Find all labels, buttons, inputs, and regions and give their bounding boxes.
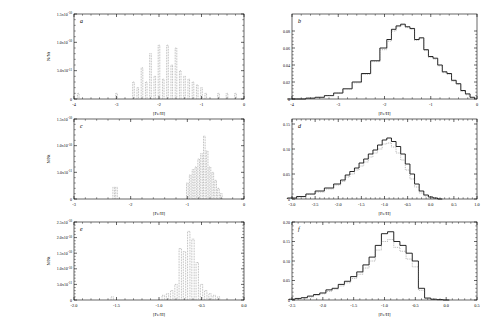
histogram-bar (179, 249, 181, 300)
y-tick-label: 0.10 (283, 259, 290, 264)
histogram-series (289, 240, 449, 300)
y-tick-label: 0 (70, 97, 72, 102)
panel-label: a (80, 18, 83, 24)
x-axis-label: [Fe/H] (378, 312, 391, 317)
x-tick-label: -1 (200, 102, 204, 107)
histogram-bar (77, 93, 79, 99)
x-tick-label: 0.0 (241, 303, 246, 308)
y-tick-label: 0 (70, 197, 72, 202)
y-tick-label: 0.08 (283, 29, 290, 34)
plot-e: -2.0-1.5-1.0-0.50.005.0x10-111.0x10-101.… (40, 218, 250, 318)
histogram-bar (192, 170, 194, 199)
histogram-bar (213, 295, 215, 300)
histogram-bar (184, 76, 186, 99)
y-tick-label: 0.04 (283, 63, 290, 68)
histogram-bar (205, 291, 207, 300)
panel-label: e (80, 226, 83, 232)
x-tick-label: 0.0 (443, 303, 448, 308)
y-axis-label: N/Nt (46, 51, 51, 61)
panel-label: c (80, 123, 83, 129)
x-tick-label: -4 (72, 102, 76, 107)
histogram-bar (218, 188, 220, 199)
x-tick-label: -4 (290, 102, 294, 107)
histogram-bar (158, 45, 160, 99)
x-tick-label: -2.0 (335, 202, 342, 207)
histogram-bar (167, 45, 169, 99)
y-tick-label: 0.10 (283, 147, 290, 152)
plot-c: -3-2-1005.0x10-111.0x10-101.5x10-10c[Fe/… (40, 115, 250, 217)
x-axis-label: [Fe/H] (378, 211, 391, 216)
x-tick-label: -1.0 (381, 202, 388, 207)
histogram-bar (150, 54, 152, 99)
x-tick-label: 1.0 (474, 202, 479, 207)
x-tick-label: -0.5 (198, 303, 205, 308)
x-tick-label: -2.5 (289, 303, 296, 308)
axes-frame (74, 222, 244, 300)
y-tick-label: 0 (70, 298, 72, 303)
x-tick-label: 0 (243, 102, 245, 107)
x-tick-label: 0 (476, 102, 478, 107)
y-tick-label: 0.20 (283, 220, 290, 225)
histogram-bar (162, 79, 164, 99)
histogram-bar (189, 175, 191, 199)
axes-frame (292, 14, 477, 99)
y-axis-label: N/Nt (46, 154, 51, 164)
x-tick-label: -1.5 (350, 303, 357, 308)
panel-label: b (298, 18, 301, 24)
x-tick-label: -2.0 (319, 303, 326, 308)
bar-series (113, 136, 222, 199)
histogram-series (287, 24, 474, 99)
histogram-bar (188, 79, 190, 99)
bar-series (111, 231, 220, 300)
x-tick-label: -0.5 (412, 303, 419, 308)
histogram-bar (141, 68, 143, 99)
x-tick-label: -2.0 (71, 303, 78, 308)
x-tick-label: -1.0 (156, 303, 163, 308)
panel-e: -2.0-1.5-1.0-0.50.005.0x10-111.0x10-101.… (40, 218, 250, 318)
y-tick-label: 0 (288, 197, 290, 202)
x-axis-label: [Fe/H] (153, 211, 166, 216)
x-tick-label: 0.5 (451, 202, 456, 207)
histogram-bar (179, 71, 181, 99)
x-tick-label: -1.0 (381, 303, 388, 308)
y-tick-label: 0.05 (283, 278, 290, 283)
histogram-bar (171, 65, 173, 99)
histogram-bar (215, 180, 217, 199)
y-tick-label: 1.0x10-10 (57, 39, 73, 45)
histogram-bar (192, 82, 194, 99)
y-tick-label: 1.5x10-10 (57, 11, 73, 17)
plot-a: -4-3-2-1005.0x10-111.0x10-101.5x10-10a[F… (40, 10, 250, 117)
histogram-bar (195, 167, 197, 199)
histogram-bar (137, 88, 139, 99)
x-tick-label: 0.5 (474, 303, 479, 308)
x-tick-label: -3 (72, 202, 76, 207)
x-tick-label: -1 (429, 102, 433, 107)
panel-label: f (298, 226, 301, 232)
histogram-bar (116, 187, 118, 199)
histogram-bar (188, 231, 190, 300)
histogram-bar (209, 167, 211, 199)
panel-d: -3.0-2.5-2.0-1.5-1.0-0.50.00.51.000.050.… (258, 115, 483, 217)
histogram-bar (183, 252, 185, 300)
x-tick-label: -3 (336, 102, 340, 107)
histogram-bar (212, 172, 214, 199)
x-tick-label: -0.5 (404, 202, 411, 207)
histogram-series (287, 25, 474, 99)
x-tick-label: -2 (157, 102, 161, 107)
x-tick-label: 0.0 (428, 202, 433, 207)
histogram-bar (171, 291, 173, 300)
panel-f: -2.5-2.0-1.5-1.0-0.50.00.500.050.100.150… (258, 218, 483, 318)
y-tick-label: 0.15 (283, 122, 290, 127)
histogram-bar (133, 82, 135, 99)
y-tick-label: 1.0x10-10 (57, 266, 73, 272)
histogram-bar (192, 239, 194, 300)
y-tick-label: 5.0x10-11 (57, 68, 72, 74)
histogram-bar (111, 297, 113, 300)
histogram-bar (113, 187, 115, 199)
histogram-bar (145, 82, 147, 99)
x-tick-label: -2.5 (312, 202, 319, 207)
x-tick-label: -1 (186, 202, 190, 207)
histogram-bar (196, 85, 198, 99)
y-tick-label: 2.0x10-10 (57, 235, 73, 241)
